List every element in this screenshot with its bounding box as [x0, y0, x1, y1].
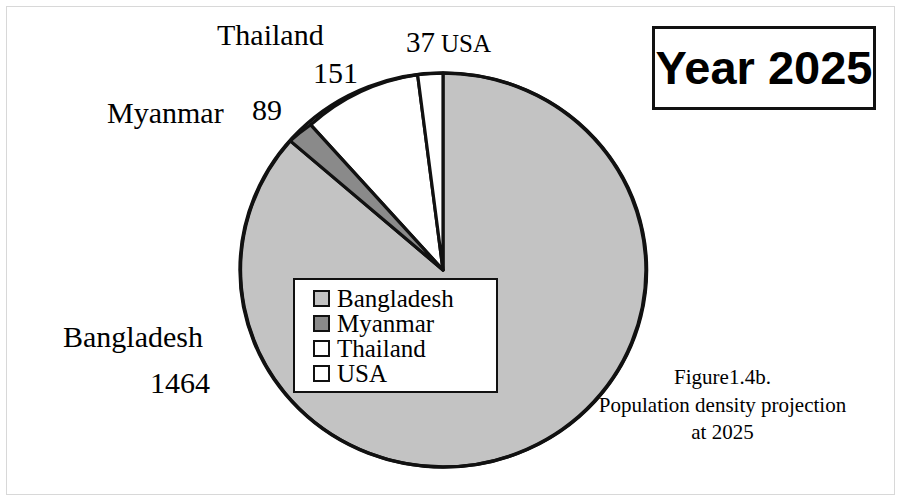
callout-thailand-value: 151 — [313, 56, 358, 90]
caption-line-2: Population density projection — [560, 392, 885, 420]
caption-line-3: at 2025 — [560, 419, 885, 447]
figure-caption: Figure1.4b. Population density projectio… — [560, 364, 885, 447]
legend-swatch-usa — [313, 365, 330, 382]
legend-label-usa: USA — [337, 361, 387, 386]
chart-legend: Bangladesh Myanmar Thailand USA — [293, 278, 498, 393]
legend-label-bangladesh: Bangladesh — [337, 286, 454, 311]
callout-thailand-name: Thailand — [217, 18, 324, 52]
year-badge-label: Year 2025 — [656, 44, 873, 91]
legend-item-usa[interactable]: USA — [313, 361, 496, 386]
legend-label-thailand: Thailand — [337, 336, 426, 361]
legend-item-thailand[interactable]: Thailand — [313, 336, 496, 361]
figure-canvas: Thailand 151 37USA Myanmar 89 Bangladesh… — [0, 0, 903, 503]
callout-usa-value: 37 — [406, 26, 435, 58]
year-badge: Year 2025 — [652, 26, 876, 110]
legend-swatch-bangladesh — [313, 290, 330, 307]
callout-myanmar-name: Myanmar — [107, 96, 224, 130]
legend-swatch-myanmar — [313, 315, 330, 332]
callout-usa-name: USA — [441, 30, 491, 57]
legend-label-myanmar: Myanmar — [337, 311, 434, 336]
callout-bangladesh-value: 1464 — [150, 366, 210, 400]
caption-line-1: Figure1.4b. — [560, 364, 885, 392]
legend-item-myanmar[interactable]: Myanmar — [313, 311, 496, 336]
legend-swatch-thailand — [313, 340, 330, 357]
callout-usa: 37USA — [406, 26, 491, 58]
legend-item-bangladesh[interactable]: Bangladesh — [313, 286, 496, 311]
callout-bangladesh-name: Bangladesh — [63, 320, 203, 354]
callout-myanmar-value: 89 — [252, 93, 282, 127]
